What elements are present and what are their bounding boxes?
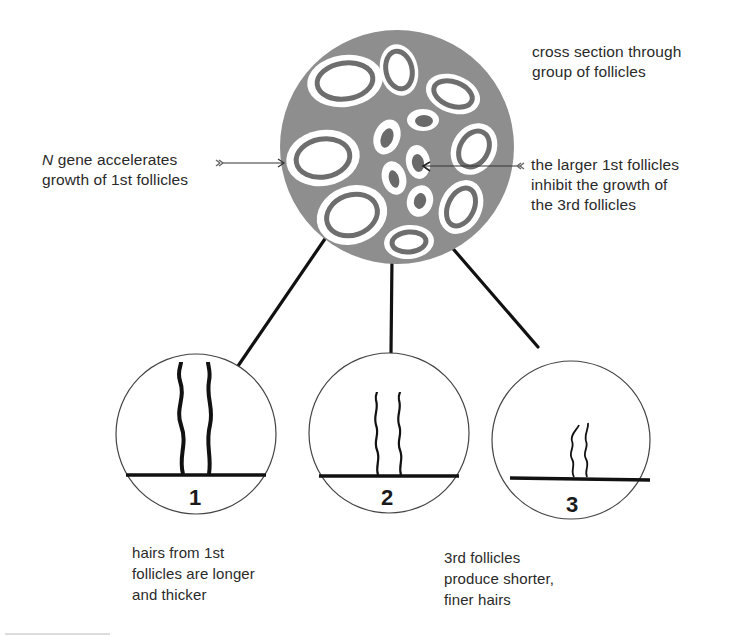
label-n-gene: N gene accelerates growth of 1st follicl… [42,150,188,190]
gene-symbol: N [42,151,53,168]
circle-number-2: 2 [381,485,393,510]
follicle-diagram: 1 2 3 [0,0,752,635]
caption-circle-3: 3rd follicles produce shorter, finer hai… [444,547,554,610]
label-inhibit: the larger 1st follicles inhibit the gro… [531,155,679,215]
connector-line-2 [391,257,392,353]
connector-line-1 [238,233,329,366]
hair-circle-2: 2 [309,353,469,513]
circle-number-3: 3 [566,492,578,517]
hair-circle-3: 3 [492,361,650,519]
hair-circle-1: 1 [116,354,276,514]
n-gene-arrow [216,159,284,167]
circle-number-1: 1 [189,485,201,510]
label-cross-section: cross section through group of follicles [532,42,681,82]
cross-section [280,30,514,264]
caption-circle-1: hairs from 1st follicles are longer and … [132,542,255,605]
